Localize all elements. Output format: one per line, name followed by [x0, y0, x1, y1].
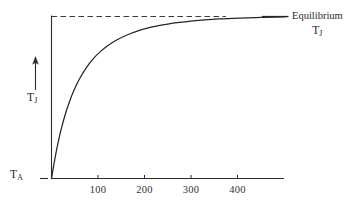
ta-symbol: T	[10, 168, 17, 180]
x-axis-tick-label: 400	[229, 185, 245, 196]
temperature-rise-curve	[52, 17, 289, 179]
ta-axis-label: TA	[10, 169, 23, 181]
tj-symbol: T	[27, 91, 34, 103]
equilibrium-caption-line1: Equilibrium	[292, 10, 343, 21]
x-axis-tick-label: 200	[136, 185, 152, 196]
tj-subscript: J	[34, 96, 37, 105]
x-axis-tick-label: 300	[183, 185, 199, 196]
equilibrium-temperature-figure: TA TJ Equilibrium TJ 100200300400	[0, 0, 354, 208]
y-axis-up-arrow-icon	[33, 57, 39, 91]
tj-axis-label: TJ	[27, 92, 37, 104]
equilibrium-caption: Equilibrium TJ	[292, 11, 343, 36]
x-axis-tick-label: 100	[90, 185, 106, 196]
equilibrium-caption-line2: TJ	[292, 25, 343, 37]
equilibrium-tj-subscript: J	[319, 29, 322, 38]
ta-subscript: A	[17, 173, 23, 182]
